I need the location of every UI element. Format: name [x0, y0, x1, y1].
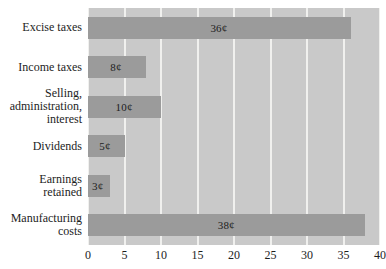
x-tick-label: 0 — [85, 248, 91, 262]
x-tick-label: 5 — [122, 248, 128, 262]
category-label: Manufacturing costs — [0, 212, 82, 238]
x-tick-label: 35 — [338, 248, 350, 262]
category-label: Selling, administration, interest — [0, 87, 82, 126]
x-tick-label: 20 — [228, 248, 240, 262]
category-label: Earnings retained — [0, 173, 82, 199]
category-label: Income taxes — [0, 61, 82, 74]
x-axis: 0510152025303540 — [88, 245, 380, 269]
clipped-title-text — [0, 0, 386, 1]
category-label: Excise taxes — [0, 21, 82, 34]
x-tick-label: 15 — [192, 248, 204, 262]
x-tick-label: 10 — [155, 248, 167, 262]
x-tick-label: 25 — [265, 248, 277, 262]
y-axis-category-labels: Excise taxesIncome taxesSelling, adminis… — [0, 8, 386, 245]
x-tick-label: 30 — [301, 248, 313, 262]
x-tick-label: 40 — [374, 248, 386, 262]
bar-chart: 36¢8¢10¢5¢3¢38¢ Excise taxesIncome taxes… — [0, 0, 386, 269]
category-label: Dividends — [0, 140, 82, 153]
